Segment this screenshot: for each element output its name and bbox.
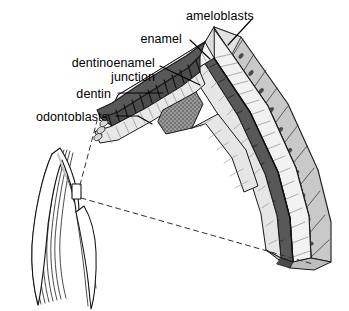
label-dentin: dentin	[11, 88, 111, 101]
tooth-histology-illustration	[0, 0, 349, 311]
label-dentinoenamel: dentinoenamel	[25, 57, 155, 70]
label-ameloblasts: ameloblasts	[186, 10, 254, 23]
label-junction: junction	[25, 71, 155, 84]
label-odontoblasts: odontoblasts	[8, 111, 108, 124]
callout-box	[72, 184, 81, 199]
figure-canvas: ameloblasts enamel dentinoenamel junctio…	[0, 0, 349, 311]
label-enamel: enamel	[82, 33, 182, 46]
dashed-leader-top	[80, 121, 97, 185]
whole-tooth-inset	[32, 148, 96, 309]
